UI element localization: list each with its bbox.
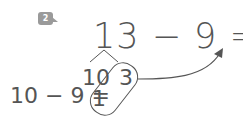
ones-value: 3 [119,66,133,90]
sub-step-result: 1 [92,87,106,111]
